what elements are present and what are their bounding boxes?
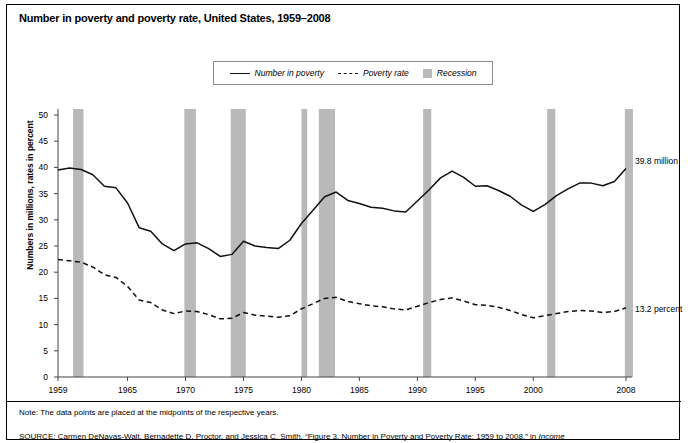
y-tick-label: 35	[26, 190, 48, 199]
x-tick-label: 1980	[281, 386, 321, 395]
y-tick-label: 30	[26, 216, 48, 225]
recession-band	[231, 109, 246, 377]
source-italic-tail: Income	[538, 432, 564, 441]
recession-band	[319, 109, 335, 377]
recession-bands-group	[73, 109, 633, 377]
chart-canvas	[7, 5, 681, 441]
y-tick-label: 0	[26, 373, 48, 382]
recession-band	[547, 109, 555, 377]
chart-source: SOURCE: Carmen DeNavas-Walt, Bernadette …	[19, 432, 565, 441]
x-tick-label: 1970	[166, 386, 206, 395]
x-tick-label: 1990	[397, 386, 437, 395]
x-tick-label: 1975	[223, 386, 263, 395]
axes-group	[54, 109, 632, 381]
source-label: SOURCE:	[19, 432, 55, 441]
y-tick-label: 20	[26, 268, 48, 277]
x-tick-label: 1965	[108, 386, 148, 395]
footer-divider	[7, 401, 681, 402]
plot-area: Numbers in millions, rates in percent 05…	[7, 5, 681, 441]
recession-band	[625, 109, 633, 377]
y-tick-label: 40	[26, 163, 48, 172]
figure-panel: Number in poverty and poverty rate, Unit…	[6, 4, 680, 440]
series-line-number-in-poverty	[58, 168, 626, 257]
annotation-number-end: 39.8 million	[635, 156, 678, 166]
y-tick-label: 45	[26, 137, 48, 146]
y-tick-label: 10	[26, 321, 48, 330]
series-line-poverty-rate	[58, 260, 626, 319]
x-tick-label: 1959	[38, 386, 78, 395]
x-tick-label: 2008	[606, 386, 646, 395]
y-tick-label: 15	[26, 294, 48, 303]
recession-band	[73, 109, 83, 377]
chart-note: Note: The data points are placed at the …	[19, 408, 279, 417]
y-tick-label: 25	[26, 242, 48, 251]
y-tick-label: 5	[26, 347, 48, 356]
x-tick-label: 1995	[455, 386, 495, 395]
source-text: Carmen DeNavas-Walt, Bernadette D. Proct…	[55, 432, 538, 441]
x-tick-label: 2000	[513, 386, 553, 395]
series-lines-group	[58, 168, 626, 319]
x-tick-label: 1985	[339, 386, 379, 395]
recession-band	[301, 109, 307, 377]
recession-band	[423, 109, 431, 377]
annotation-rate-end: 13.2 percent	[635, 304, 682, 314]
y-tick-label: 50	[26, 111, 48, 120]
